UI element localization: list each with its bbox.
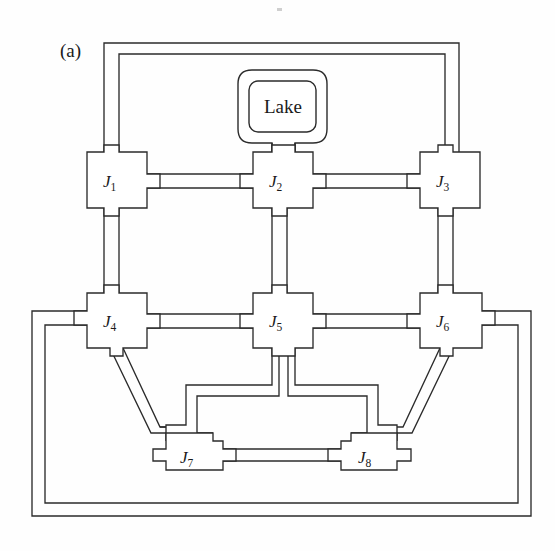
node-j2[interactable]: J2 [240, 145, 326, 216]
edge-j5-j7 [166, 348, 279, 441]
edge-j1-j4 [104, 208, 119, 293]
edge-j1-j2 [147, 174, 253, 188]
edge-j4-j5 [147, 314, 253, 328]
figure-panel: Lake [0, 0, 555, 551]
scan-speck [277, 8, 282, 11]
node-j7[interactable]: J7 [153, 433, 236, 470]
network-schematic-svg: Lake [0, 0, 555, 551]
node-j8[interactable]: J8 [328, 433, 411, 470]
edge-j5-j6 [313, 314, 420, 328]
edge-j4-j7 [110, 348, 166, 433]
panel-label: (a) [60, 40, 81, 62]
edge-j5-j8 [288, 348, 397, 441]
node-j6[interactable]: J6 [407, 285, 495, 356]
edge-j2-j5 [272, 208, 287, 293]
edge-j6-j8 [397, 348, 453, 433]
node-j1[interactable]: J1 [87, 145, 160, 216]
edge-j2-j3 [313, 174, 420, 188]
node-j3[interactable]: J3 [407, 145, 480, 216]
lake-label: Lake [264, 96, 302, 117]
lake-group: Lake [238, 70, 327, 152]
node-j4[interactable]: J4 [74, 285, 160, 356]
node-j5[interactable]: J5 [240, 285, 326, 356]
edge-j3-j6 [438, 208, 453, 293]
edge-j7-j8 [223, 449, 341, 461]
